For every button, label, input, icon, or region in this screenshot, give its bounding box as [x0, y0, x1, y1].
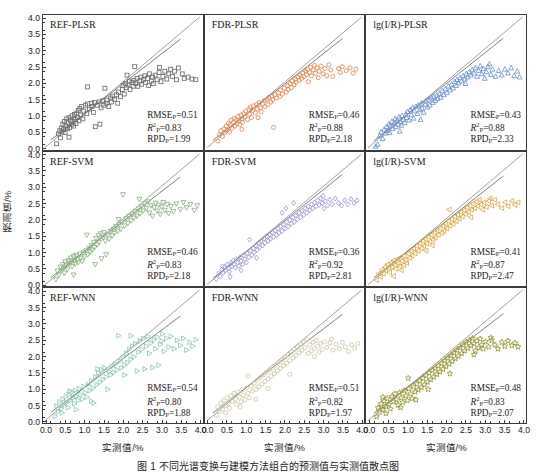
y-minor-tick — [43, 295, 45, 296]
y-minor-tick — [43, 336, 45, 337]
x-tick-mark — [369, 420, 370, 423]
panel-ref-wnn: REF-WNNRMSEP=0.54R2P=0.80RPDP=1.880.00.5… — [42, 287, 204, 424]
x-minor-tick — [328, 421, 329, 423]
x-tick-mark — [485, 420, 486, 423]
x-minor-tick — [128, 421, 129, 423]
x-tick-label: 3.0 — [318, 426, 330, 435]
x-tick-mark — [465, 420, 466, 423]
y-minor-tick — [43, 191, 45, 192]
x-minor-tick — [231, 421, 232, 423]
panel-title: lg(I/R)-WNN — [373, 292, 427, 303]
x-minor-tick — [490, 421, 491, 423]
y-tick-mark — [43, 170, 46, 171]
y-minor-tick — [43, 311, 45, 312]
y-minor-tick — [43, 71, 45, 72]
y-tick-label: 3.0 — [28, 46, 40, 55]
stat-rmse: RMSEP=0.43 — [470, 110, 521, 121]
x-minor-tick — [441, 421, 442, 423]
panel-lg-i-r-plsr: lg(I/R)-PLSRRMSEP=0.43R2P=0.88RPDP=2.33 — [365, 14, 527, 151]
y-minor-tick — [43, 232, 45, 233]
y-tick-mark — [43, 307, 46, 308]
stat-rpd: RPDP=2.47 — [470, 271, 521, 282]
panel-grid: REF-PLSRRMSEP=0.51R2P=0.83RPDP=1.990.00.… — [42, 14, 527, 424]
x-tick-mark — [446, 420, 447, 423]
panel-stats: RMSEP=0.43R2P=0.88RPDP=2.33 — [470, 110, 521, 146]
y-minor-tick — [43, 62, 45, 63]
y-minor-tick — [43, 120, 45, 121]
y-tick-mark — [43, 148, 46, 149]
x-tick-mark — [284, 420, 285, 423]
x-tick-label: 3.0 — [156, 426, 168, 435]
y-minor-tick — [43, 144, 45, 145]
stat-rpd: RPDP=2.18 — [309, 134, 360, 145]
stat-rpd: RPDP=2.81 — [309, 271, 360, 282]
x-axis-label: 实测值/% — [204, 440, 366, 454]
stat-rmse: RMSEP=0.46 — [147, 247, 198, 258]
x-minor-tick — [137, 421, 138, 423]
stat-rpd: RPDP=1.88 — [147, 408, 198, 419]
stat-r2: R2P=0.92 — [309, 258, 360, 271]
stat-rpd: RPDP=2.18 — [147, 271, 198, 282]
x-tick-mark — [523, 420, 524, 423]
x-minor-tick — [461, 421, 462, 423]
x-tick-label: 0.5 — [383, 426, 395, 435]
y-tick-mark — [43, 219, 46, 220]
x-minor-tick — [222, 421, 223, 423]
y-tick-label: 1.0 — [28, 248, 40, 257]
x-tick-mark — [265, 420, 266, 423]
y-tick-label: 4.0 — [28, 287, 40, 296]
x-tick-label: 0.5 — [221, 426, 233, 435]
panel-title: REF-WNN — [50, 292, 96, 303]
y-tick-label: 4.0 — [28, 150, 40, 159]
y-minor-tick — [43, 385, 45, 386]
x-tick-mark — [407, 420, 408, 423]
y-tick-mark — [43, 268, 46, 269]
x-tick-mark — [304, 420, 305, 423]
figure-root: 预测值/% REF-PLSRRMSEP=0.51R2P=0.83RPDP=1.9… — [0, 0, 536, 473]
x-tick-label: 2.0 — [117, 426, 129, 435]
y-tick-label: 1.0 — [28, 112, 40, 121]
x-tick-mark — [142, 420, 143, 423]
y-tick-label: 2.0 — [28, 216, 40, 225]
y-minor-tick — [43, 30, 45, 31]
y-tick-label: 0.5 — [28, 128, 40, 137]
x-minor-tick — [89, 421, 90, 423]
y-minor-tick — [43, 224, 45, 225]
x-minor-tick — [157, 421, 158, 423]
y-minor-tick — [43, 281, 45, 282]
y-tick-label: 1.5 — [28, 95, 40, 104]
stat-r2: R2P=0.88 — [309, 121, 360, 134]
y-tick-label: 2.5 — [28, 336, 40, 345]
y-tick-mark — [43, 116, 46, 117]
panel-stats: RMSEP=0.41R2P=0.87RPDP=2.47 — [470, 247, 521, 283]
y-tick-mark — [43, 99, 46, 100]
x-tick-mark — [246, 420, 247, 423]
x-minor-tick — [147, 421, 148, 423]
y-minor-tick — [43, 136, 45, 137]
x-minor-tick — [383, 421, 384, 423]
x-minor-tick — [374, 421, 375, 423]
x-minor-tick — [70, 421, 71, 423]
y-minor-tick — [43, 87, 45, 88]
y-minor-tick — [43, 111, 45, 112]
y-minor-tick — [43, 409, 45, 410]
y-minor-tick — [43, 38, 45, 39]
panel-fdr-plsr: FDR-PLSRRMSEP=0.46R2P=0.88RPDP=2.18 — [204, 14, 366, 151]
stat-rpd: RPDP=1.99 — [147, 134, 198, 145]
stat-rmse: RMSEP=0.36 — [309, 247, 360, 258]
y-tick-label: 2.5 — [28, 199, 40, 208]
panel-fdr-svm: FDR-SVMRMSEP=0.36R2P=0.92RPDP=2.81 — [204, 151, 366, 288]
y-minor-tick — [43, 368, 45, 369]
x-tick-mark — [65, 420, 66, 423]
figure-caption: 图 1 不同光谱变换与建模方法组合的预测值与实测值散点图 — [0, 458, 536, 473]
x-tick-label: 1.5 — [260, 426, 272, 435]
panel-ref-svm: REF-SVMRMSEP=0.46R2P=0.83RPDP=2.180.00.5… — [42, 151, 204, 288]
x-tick-mark — [123, 420, 124, 423]
x-tick-label: 0.0 — [202, 426, 214, 435]
x-minor-tick — [403, 421, 404, 423]
y-minor-tick — [43, 401, 45, 402]
x-tick-mark — [207, 420, 208, 423]
y-axis-label: 预测值/% — [1, 0, 15, 423]
y-tick-mark — [43, 356, 46, 357]
y-tick-label: 3.5 — [28, 303, 40, 312]
